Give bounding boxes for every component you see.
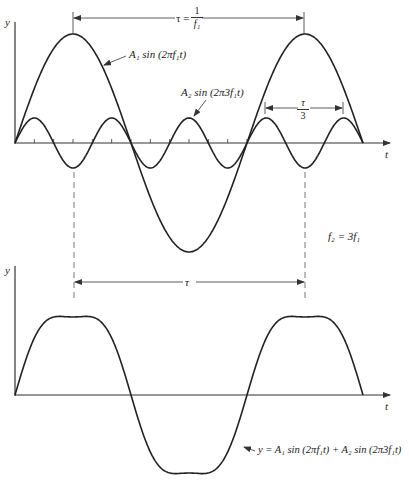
bottom-period-label: τ <box>185 277 189 288</box>
period-frac-num: 1 <box>191 6 203 16</box>
curve2-label: A₂ sin (2π3f₁t) <box>181 87 244 98</box>
top-period-label: τ = <box>176 13 189 24</box>
period-frac-den: f₁ <box>191 19 203 29</box>
sum-equation-label: y = A₁ sin (2πf₁t) + A₂ sin (2π3f₁t) <box>258 445 401 456</box>
top-t-label: t <box>385 149 388 160</box>
curve1-label: A₁ sin (2πf₁t) <box>129 49 186 60</box>
top-y-label: y <box>5 17 10 28</box>
frequency-relation-label: f₂ = 3f₁ <box>328 231 360 242</box>
bottom-y-label: y <box>5 265 10 276</box>
bottom-t-label: t <box>385 401 388 412</box>
third-frac-num: τ <box>297 98 309 108</box>
curve1-pointer <box>104 56 126 65</box>
curve2-pointer <box>194 100 206 116</box>
sum-pointer <box>244 447 255 451</box>
top-period-fraction: 1 f₁ <box>191 6 203 29</box>
third-period-fraction: τ 3 <box>297 98 309 121</box>
third-frac-den: 3 <box>297 111 309 121</box>
waveform-diagram <box>0 0 409 501</box>
